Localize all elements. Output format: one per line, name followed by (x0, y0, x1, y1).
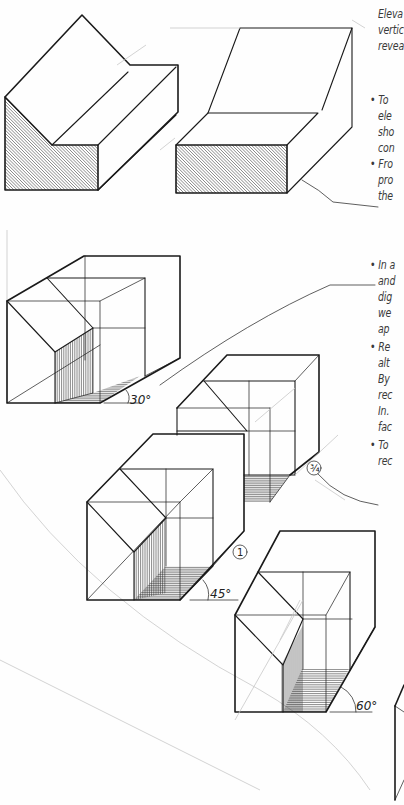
hatch-line (256, 143, 308, 195)
hatch-line (208, 143, 260, 195)
hatch-line (195, 143, 247, 195)
hatch-line (259, 143, 311, 195)
caption-line: dig (378, 289, 392, 305)
caption-line: revea (378, 38, 404, 54)
leader-line (160, 285, 375, 385)
hatch-line (230, 143, 282, 195)
hatch-line (268, 143, 320, 195)
hatch-line (60, 95, 157, 192)
oblique-drawings-plate: 30° ¾ 45° (0, 0, 404, 805)
hatch-line (265, 143, 317, 195)
scale-marker-one: 1 (237, 547, 243, 558)
hatch-line (192, 143, 244, 195)
caption-line: ele (378, 108, 392, 124)
hatch-line (69, 95, 166, 192)
hatch-line (89, 95, 186, 192)
hatch-line (66, 95, 163, 192)
caption-line: and (378, 273, 395, 289)
hatch-line (73, 95, 170, 192)
hatch-line (37, 95, 134, 192)
hatch-line (21, 95, 118, 192)
hatch-line (220, 143, 272, 195)
caption-line: By (378, 371, 390, 387)
caption-line: pro (378, 172, 393, 188)
caption-line: alt (378, 355, 390, 371)
vertical-hatch (281, 620, 305, 714)
figure-cube-three-quarter: ¾ (177, 355, 378, 505)
hatch-line (240, 143, 292, 195)
hatch-line (272, 143, 324, 195)
hatch-line (124, 143, 176, 195)
hatch-line (163, 143, 215, 195)
vertical-hatch (55, 320, 95, 405)
hatch-line (34, 95, 131, 192)
hatch-line (47, 95, 144, 192)
caption-line: rec (378, 453, 392, 469)
hatch-line (25, 95, 122, 192)
hatch-line (275, 143, 327, 195)
hatch-line (92, 95, 189, 192)
hatch-line (236, 143, 288, 195)
hatch-line (214, 143, 266, 195)
hatch-line (118, 143, 170, 195)
hatch-line (156, 143, 208, 195)
caption-bullet-line: • In a (370, 257, 395, 273)
hatch-line (128, 143, 180, 195)
hatch-line (144, 143, 196, 195)
caption-line: we (378, 305, 391, 321)
figure-cube-60: 60° (235, 531, 377, 720)
hatch-line (57, 95, 154, 192)
caption-line: sho (378, 124, 394, 140)
hatch-line (9, 95, 106, 192)
angle-label-45: 45° (210, 587, 231, 601)
hatch-line (147, 143, 199, 195)
figure-cube-45: 45° 1 (87, 434, 247, 602)
hatch-line (176, 143, 228, 195)
hatch-line (121, 143, 173, 195)
hatch-line (166, 143, 218, 195)
hatch-line (227, 143, 279, 195)
leader-line (318, 474, 378, 505)
caption-line: Eleva (378, 6, 403, 22)
hatch-line (18, 95, 115, 192)
caption-bullet-line: • Fro (370, 156, 393, 172)
hatch-line (79, 95, 176, 192)
hatch-line (12, 95, 109, 192)
hatch-line (224, 143, 276, 195)
hatch-line (185, 143, 237, 195)
construction-line (0, 660, 120, 720)
figure-elevation-oblique-2 (118, 20, 378, 207)
caption-line: con (378, 140, 394, 156)
caption-line: ap (378, 321, 389, 337)
hatch-line (217, 143, 269, 195)
caption-bullet-line: • Re (370, 339, 390, 355)
hatch-line (53, 95, 150, 192)
hatch-line (169, 143, 221, 195)
hatch-line (179, 143, 231, 195)
document-page: 30° ¾ 45° (0, 0, 404, 805)
hatch-line (134, 143, 186, 195)
angle-label-60: 60° (356, 699, 377, 713)
vertical-hatch (134, 510, 167, 602)
hatch-line (76, 95, 173, 192)
caption-line: In. (378, 403, 389, 419)
hatch-line (140, 143, 192, 195)
hatch-line (44, 95, 141, 192)
horizontal-hatch (240, 473, 292, 504)
hatch-line (160, 143, 212, 195)
hatch-line (201, 143, 253, 195)
scale-marker-three-quarter: ¾ (310, 463, 320, 474)
hatch-line (153, 143, 205, 195)
caption-line: rec (378, 387, 392, 403)
hatch-line (31, 95, 128, 192)
hatch-line (281, 143, 333, 195)
hatch-line (188, 143, 240, 195)
figure-elevation-oblique-1 (0, 15, 195, 192)
figure-partial-bottom-right (395, 685, 404, 800)
hatch-line (233, 143, 285, 195)
hatch-line (137, 143, 189, 195)
hatch-line (182, 143, 234, 195)
hatch-line (204, 143, 256, 195)
hatch-line (262, 143, 314, 195)
hatch-line (0, 95, 58, 192)
